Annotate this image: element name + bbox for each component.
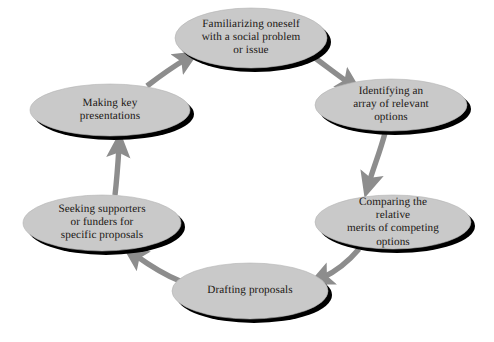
connector-comparing-to-drafting: [322, 249, 359, 278]
node-identifying[interactable]: [315, 79, 467, 131]
cycle-diagram-canvas: [0, 0, 494, 342]
connector-drafting-to-seeking: [135, 255, 180, 281]
node-presentations[interactable]: [30, 84, 190, 136]
connector-seeking-to-presentations: [115, 147, 119, 195]
node-drafting[interactable]: [172, 263, 328, 319]
node-group: [23, 8, 471, 319]
connector-presentations-to-familiarizing: [147, 59, 186, 86]
cycle-diagram: Familiarizing oneself with a social prob…: [0, 0, 494, 342]
node-seeking[interactable]: [23, 195, 181, 251]
connector-identifying-to-comparing: [369, 133, 385, 183]
node-familiarizing[interactable]: [175, 8, 327, 68]
node-comparing[interactable]: [315, 195, 471, 249]
